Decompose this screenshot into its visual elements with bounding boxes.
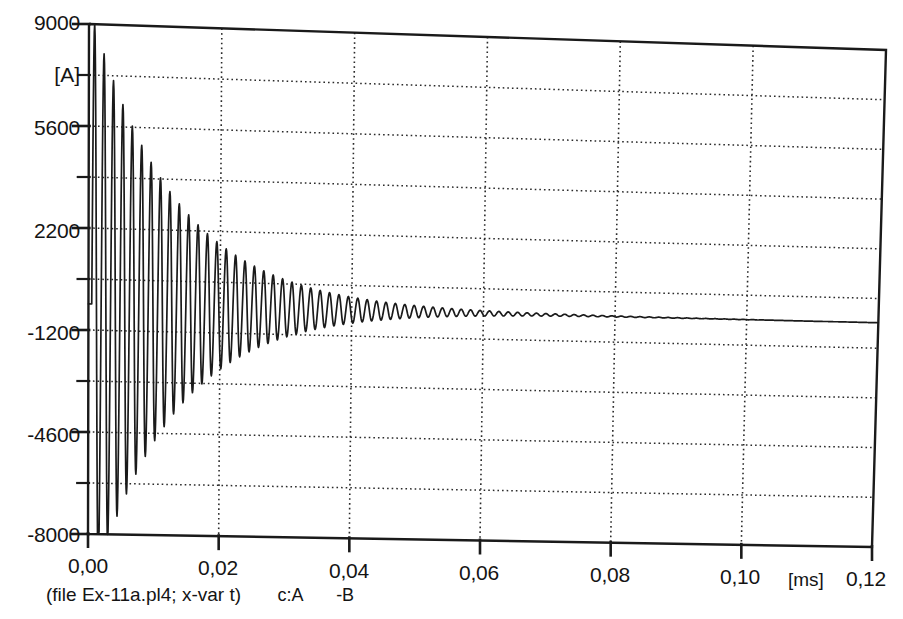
x-tick-label-0-04: 0,04 (307, 560, 391, 581)
y-tick-label-2200: 2200 (0, 220, 80, 241)
plot-canvas (0, 0, 903, 619)
x-axis-unit-label: [ms] (788, 570, 824, 589)
legend-entry-b: -B (336, 585, 354, 605)
plot-caption: (file Ex-11a.pl4; x-var t) c:A -B (46, 585, 354, 604)
y-tick-label-9000: 9000 (0, 12, 80, 33)
legend-entry-a: c:A (278, 585, 304, 605)
x-tick-label-0-00: 0,00 (46, 555, 130, 576)
plot-frame (88, 24, 886, 547)
grid-lines (88, 28, 885, 545)
y-axis-unit-label: [A] (0, 64, 80, 85)
x-tick-label-0-08: 0,08 (568, 564, 652, 585)
y-tick-label-5600: 5600 (0, 117, 80, 138)
y-tick-label--4600: -4600 (0, 424, 80, 445)
caption-file-text: (file Ex-11a.pl4; x-var t) (46, 584, 241, 605)
x-tick-label-0-02: 0,02 (176, 557, 260, 578)
y-tick-label--1200: -1200 (0, 322, 80, 343)
grid-line-horizontal (88, 483, 873, 497)
x-tick-label-0-06: 0,06 (437, 562, 521, 583)
x-tick-label-0-12: 0,12 (830, 568, 902, 589)
x-tick-label-0-10: 0,10 (698, 566, 782, 587)
waveform-trace (88, 24, 878, 534)
chart-root: 9000 [A] 5600 2200 -1200 -4600 -8000 0,0… (0, 0, 903, 619)
y-tick-label--8000: -8000 (0, 524, 80, 545)
grid-line-vertical (480, 37, 488, 541)
